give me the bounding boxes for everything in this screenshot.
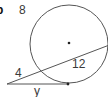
secant-internal-label: 12 bbox=[72, 57, 86, 71]
secant-line bbox=[7, 44, 108, 84]
problem-number: 8 bbox=[19, 3, 26, 17]
center-point bbox=[68, 42, 71, 45]
part-label: b bbox=[0, 3, 3, 17]
tangent-label: y bbox=[34, 84, 40, 97]
tangent-point bbox=[67, 83, 70, 86]
secant-external-label: 4 bbox=[15, 66, 22, 80]
circle-secant-tangent-diagram: b 8 4 12 y bbox=[0, 0, 108, 97]
